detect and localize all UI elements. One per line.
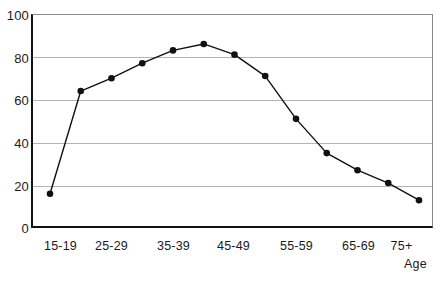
y-tick-100: 100 [1,9,29,22]
gridline-80 [33,57,432,58]
y-tick-40: 40 [1,137,29,150]
x-axis-title: Age [404,258,427,271]
x-tick-45-49: 45-49 [203,240,264,253]
y-tick-80: 80 [1,52,29,65]
line-chart: 100 80 60 40 20 0 15-19 25-29 35-39 45-4… [0,0,445,281]
plot-area [31,14,433,228]
y-tick-20: 20 [1,180,29,193]
gridline-60 [33,100,432,101]
x-tick-25-29: 25-29 [81,240,142,253]
x-tick-75plus: 75+ [371,240,432,253]
x-tick-55-59: 55-59 [266,240,327,253]
x-tick-35-39: 35-39 [143,240,204,253]
gridline-20 [33,186,432,187]
y-axis-labels: 100 80 60 40 20 0 [0,0,29,240]
y-tick-0: 0 [1,222,29,235]
y-tick-60: 60 [1,94,29,107]
gridline-40 [33,143,432,144]
